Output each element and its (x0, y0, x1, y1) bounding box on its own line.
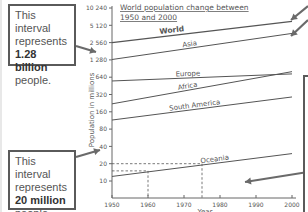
series-label-south-america: South America (169, 98, 221, 112)
x-tick-label: 2000 (284, 201, 299, 208)
dashed-guides (112, 164, 202, 198)
callout-text-line: people. (15, 207, 70, 212)
callout-emphasis: 1.28 billion (15, 48, 47, 73)
arrow-icon (245, 172, 308, 182)
y-tick-label: 10 (99, 177, 107, 184)
x-tick-label: 1960 (140, 201, 155, 208)
y-tick-label: 320 (96, 91, 108, 98)
chart-title-line: World population change between (120, 3, 249, 12)
y-tick-label: 80 (99, 125, 107, 132)
series-line-world (112, 21, 292, 42)
callout-text-line: people. (15, 74, 70, 87)
x-tick-label: 1980 (212, 201, 227, 208)
y-tick-label: 160 (96, 108, 108, 115)
y-tick-label: 2 560 (90, 39, 107, 46)
callout-text-line: represents (15, 35, 70, 48)
callout-emphasis: 20 million (15, 194, 66, 206)
right-callout-box (303, 75, 308, 212)
y-tick-label: 40 (99, 143, 107, 150)
x-tick-label: 1990 (248, 201, 263, 208)
series-label-africa: Africa (177, 81, 198, 92)
x-tick-label: 1970 (176, 201, 191, 208)
chart-series: WorldAsiaEuropeAfricaSouth AmericaOceani… (112, 21, 292, 176)
callout-text-line: This interval (15, 155, 70, 181)
x-tick-label: 1950 (104, 201, 119, 208)
series-line-asia (112, 33, 292, 59)
series-line-africa (112, 72, 292, 104)
callout-text-line: This interval (15, 9, 70, 35)
callout-text-line: represents (15, 181, 70, 194)
x-axis-label: Year (197, 208, 213, 212)
y-tick-label: 640 (96, 73, 108, 80)
callout-billion-interval: This interval represents 1.28 billion pe… (8, 4, 76, 66)
y-tick-label: 1 280 (90, 56, 107, 63)
y-tick-label: 20 (99, 160, 107, 167)
y-tick-label: 5 120 (90, 22, 107, 29)
series-label-oceania: Oceania (200, 154, 229, 166)
y-tick-label: 10 240 (86, 4, 107, 11)
series-line-europe (112, 74, 292, 81)
chart-title-line: 1950 and 2000 (120, 13, 177, 22)
callout-million-interval: This interval represents 20 million peop… (8, 150, 76, 210)
series-label-europe: Europe (175, 70, 200, 79)
chart-title: World population change between1950 and … (120, 3, 249, 22)
y-axis-label: Population in millions (88, 72, 96, 147)
